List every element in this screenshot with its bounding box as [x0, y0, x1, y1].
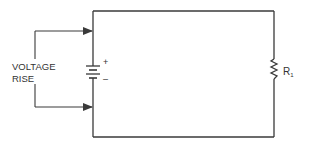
battery-symbol — [86, 66, 100, 78]
resistor-symbol — [271, 59, 277, 79]
resistor-label-name: R — [283, 66, 290, 77]
voltage-rise-label-line2: RISE — [12, 73, 34, 84]
resistor-label-subscript: 1 — [290, 72, 294, 78]
resistor-label: R1 — [283, 66, 294, 78]
circuit-diagram: + – R1 VOLTAGE RISE — [0, 0, 309, 147]
voltage-rise-label-line1: VOLTAGE — [12, 61, 55, 72]
circuit-loop — [93, 11, 274, 137]
battery-plus-sign: + — [103, 57, 108, 67]
battery-minus-sign: – — [103, 74, 108, 84]
